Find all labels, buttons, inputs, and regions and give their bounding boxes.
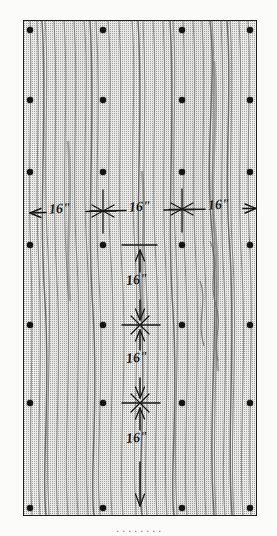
nail <box>27 27 33 33</box>
nail <box>179 322 185 328</box>
nail <box>247 97 253 103</box>
nail <box>100 242 106 248</box>
v-dim-label-1: 16" <box>125 271 148 289</box>
plywood-nailing-detail-figure: 16" 16" 16" 16" 16" 16" · · · · · · · · <box>0 0 277 536</box>
h-dim-label-3: 16" <box>207 196 230 213</box>
nail <box>247 322 253 328</box>
nail <box>100 322 106 328</box>
nail <box>179 27 185 33</box>
nail <box>179 97 185 103</box>
nail <box>27 505 33 511</box>
nail <box>100 400 106 406</box>
nail <box>247 400 253 406</box>
nail <box>100 27 106 33</box>
h-dim-label-2: 16" <box>128 198 151 215</box>
nail <box>100 505 106 511</box>
nail <box>179 242 185 248</box>
nail <box>27 97 33 103</box>
v-dim-label-2: 16" <box>125 349 148 367</box>
nail <box>27 169 33 175</box>
h-dim-label-1: 16" <box>48 200 71 217</box>
nail <box>27 322 33 328</box>
v-dim-label-3: 16" <box>125 429 148 447</box>
nail <box>247 27 253 33</box>
nail <box>179 400 185 406</box>
nail <box>179 505 185 511</box>
nail <box>247 169 253 175</box>
nail <box>27 242 33 248</box>
figure-caption: · · · · · · · · <box>0 524 277 536</box>
nail <box>247 242 253 248</box>
nail <box>247 505 253 511</box>
nail <box>179 169 185 175</box>
nail <box>100 169 106 175</box>
nail <box>100 97 106 103</box>
nail <box>27 400 33 406</box>
